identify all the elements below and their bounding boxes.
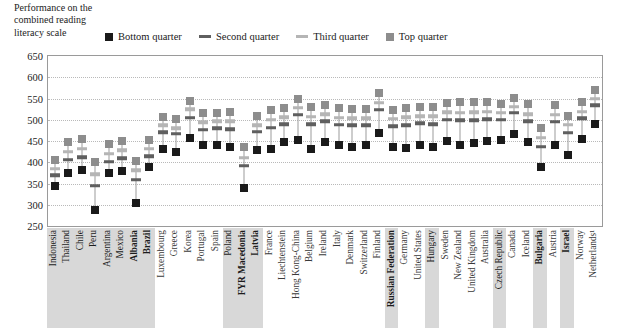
x-axis-category[interactable]: Brazil: [142, 228, 156, 328]
x-axis-category[interactable]: Peru: [88, 228, 102, 328]
data-column[interactable]: [426, 56, 440, 226]
data-point-top-quarter: [321, 101, 329, 109]
data-column[interactable]: [170, 56, 184, 226]
data-column[interactable]: [467, 56, 481, 226]
data-point-bottom-quarter: [510, 130, 518, 138]
data-column[interactable]: [224, 56, 238, 226]
data-column[interactable]: [183, 56, 197, 226]
x-axis-category[interactable]: Albania: [128, 228, 142, 328]
x-axis-category[interactable]: United States: [412, 228, 426, 328]
x-axis-category[interactable]: Chile: [74, 228, 88, 328]
x-axis-category[interactable]: Mexico: [115, 228, 129, 328]
x-axis-category[interactable]: Hong Kong-China: [290, 228, 304, 328]
x-axis-category[interactable]: Poland: [223, 228, 237, 328]
x-axis-category[interactable]: Czech Republic: [493, 228, 507, 328]
x-axis-category[interactable]: Greece: [169, 228, 183, 328]
x-axis-category[interactable]: Sweden: [439, 228, 453, 328]
x-axis-category[interactable]: United Kingdom: [466, 228, 480, 328]
data-column[interactable]: [345, 56, 359, 226]
data-column[interactable]: [359, 56, 373, 226]
x-axis-category[interactable]: Belgium: [304, 228, 318, 328]
x-axis-category[interactable]: Bulgaria: [533, 228, 547, 328]
x-axis-tick-label: Czech Republic: [495, 230, 504, 289]
data-column[interactable]: [480, 56, 494, 226]
data-point-bottom-quarter: [307, 145, 315, 153]
x-axis-category[interactable]: New Zealand: [452, 228, 466, 328]
data-column[interactable]: [129, 56, 143, 226]
x-axis-category[interactable]: Liechtenstein: [277, 228, 291, 328]
y-axis-tick-label: 450: [13, 136, 43, 147]
data-column[interactable]: [534, 56, 548, 226]
data-column[interactable]: [62, 56, 76, 226]
data-column[interactable]: [197, 56, 211, 226]
x-axis-category[interactable]: Australia: [479, 228, 493, 328]
data-column[interactable]: [75, 56, 89, 226]
data-column[interactable]: [386, 56, 400, 226]
data-column[interactable]: [264, 56, 278, 226]
data-column[interactable]: [143, 56, 157, 226]
data-column[interactable]: [413, 56, 427, 226]
x-axis-category[interactable]: Portugal: [196, 228, 210, 328]
data-column[interactable]: [372, 56, 386, 226]
data-column[interactable]: [399, 56, 413, 226]
x-axis-category[interactable]: Indonesia: [47, 228, 61, 328]
data-column[interactable]: [318, 56, 332, 226]
data-point-top-quarter: [145, 136, 153, 144]
x-axis-category[interactable]: Germany: [398, 228, 412, 328]
data-column[interactable]: [305, 56, 319, 226]
data-column[interactable]: [278, 56, 292, 226]
x-axis-category[interactable]: Israel: [560, 228, 574, 328]
legend-third-quarter[interactable]: Third quarter: [296, 31, 369, 42]
x-axis-category[interactable]: Norway: [574, 228, 588, 328]
data-column[interactable]: [291, 56, 305, 226]
data-column[interactable]: [588, 56, 602, 226]
data-column[interactable]: [102, 56, 116, 226]
x-axis-category[interactable]: France: [263, 228, 277, 328]
data-column[interactable]: [156, 56, 170, 226]
x-axis-category[interactable]: Latvia: [250, 228, 264, 328]
data-point-top-quarter: [470, 98, 478, 106]
data-column[interactable]: [507, 56, 521, 226]
x-axis-category[interactable]: Korea: [182, 228, 196, 328]
x-axis-category[interactable]: Denmark: [344, 228, 358, 328]
x-axis-category[interactable]: Thailand: [61, 228, 75, 328]
data-column[interactable]: [440, 56, 454, 226]
data-point-third-quarter: [225, 119, 235, 123]
data-column[interactable]: [237, 56, 251, 226]
data-point-second-quarter: [50, 173, 60, 177]
x-axis-category[interactable]: Spain: [209, 228, 223, 328]
data-point-second-quarter: [117, 156, 127, 160]
data-point-third-quarter: [306, 115, 316, 119]
x-axis-category[interactable]: Argentina: [101, 228, 115, 328]
x-axis-category[interactable]: Luxembourg: [155, 228, 169, 328]
legend-bottom-quarter[interactable]: Bottom quarter: [105, 31, 182, 42]
data-column[interactable]: [210, 56, 224, 226]
legend-second-quarter[interactable]: Second quarter: [199, 31, 279, 42]
x-axis-category[interactable]: Austria: [547, 228, 561, 328]
data-column[interactable]: [494, 56, 508, 226]
x-axis-category[interactable]: Canada: [506, 228, 520, 328]
data-column[interactable]: [48, 56, 62, 226]
x-axis-tick-label: Greece: [171, 230, 180, 256]
x-axis-category[interactable]: Ireland: [317, 228, 331, 328]
legend-top-quarter[interactable]: Top quarter: [386, 31, 448, 42]
data-column[interactable]: [548, 56, 562, 226]
data-column[interactable]: [575, 56, 589, 226]
data-column[interactable]: [116, 56, 130, 226]
x-axis-category[interactable]: Netherlands¹: [587, 228, 601, 328]
x-axis-category[interactable]: Iceland: [520, 228, 534, 328]
x-axis-category[interactable]: Hungary: [425, 228, 439, 328]
data-point-third-quarter: [509, 105, 519, 109]
x-axis-category[interactable]: Finland: [371, 228, 385, 328]
data-column[interactable]: [251, 56, 265, 226]
data-column[interactable]: [453, 56, 467, 226]
data-column[interactable]: [521, 56, 535, 226]
x-axis-category[interactable]: FYR Macedonia: [236, 228, 250, 328]
x-axis-category[interactable]: Italy: [331, 228, 345, 328]
data-column[interactable]: [561, 56, 575, 226]
x-axis-category[interactable]: Russian Federation: [385, 228, 399, 328]
data-column[interactable]: [89, 56, 103, 226]
data-point-second-quarter: [550, 120, 560, 124]
x-axis-category[interactable]: Switzerland: [358, 228, 372, 328]
data-column[interactable]: [332, 56, 346, 226]
